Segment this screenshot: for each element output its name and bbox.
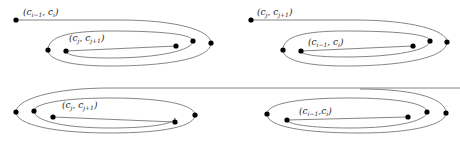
middle-curve: [283, 31, 430, 57]
point-dot: [208, 40, 213, 45]
panel-top-right: [248, 17, 449, 66]
middle-curve: [267, 98, 427, 128]
point-dot: [190, 38, 195, 43]
point-dot: [443, 110, 448, 115]
point-dot: [172, 119, 177, 124]
point-dot: [264, 111, 269, 116]
point-dot: [405, 114, 410, 119]
label-top-right-inner: (ci−1, ci): [308, 38, 344, 48]
point-dot: [31, 108, 36, 113]
outer-curve: [16, 20, 211, 66]
point-dot: [280, 47, 285, 52]
point-dot: [284, 117, 289, 122]
point-dot: [427, 38, 432, 43]
label-top-left-outer: (ci−1, ci): [23, 8, 59, 18]
panel-bottom-right: [264, 89, 448, 133]
point-dot: [298, 48, 303, 53]
point-dot: [410, 43, 415, 48]
label-bottom-left-inner: (cj, cj+1): [62, 101, 97, 111]
point-dot: [45, 47, 50, 52]
outer-curve: [251, 20, 447, 66]
endpoint-dot: [13, 17, 18, 22]
label-top-right-outer: (cj, cj+1): [257, 8, 292, 18]
inner-segment: [53, 117, 175, 122]
label-bottom-right-inner: (ci−1,ci): [299, 107, 332, 117]
point-dot: [13, 109, 18, 114]
inner-segment: [287, 117, 408, 120]
point-dot: [50, 114, 55, 119]
diagram-canvas: [0, 0, 460, 146]
middle-curve: [34, 98, 195, 128]
point-dot: [173, 43, 178, 48]
point-dot: [192, 112, 197, 117]
label-top-left-inner: (cj, cj+1): [69, 34, 104, 44]
point-dot: [444, 39, 449, 44]
point-dot: [63, 48, 68, 53]
endpoint-dot: [248, 17, 253, 22]
outer-curve: [267, 89, 446, 133]
inner-segment: [66, 46, 176, 51]
panel-top-left: [13, 17, 213, 66]
point-dot: [424, 109, 429, 114]
